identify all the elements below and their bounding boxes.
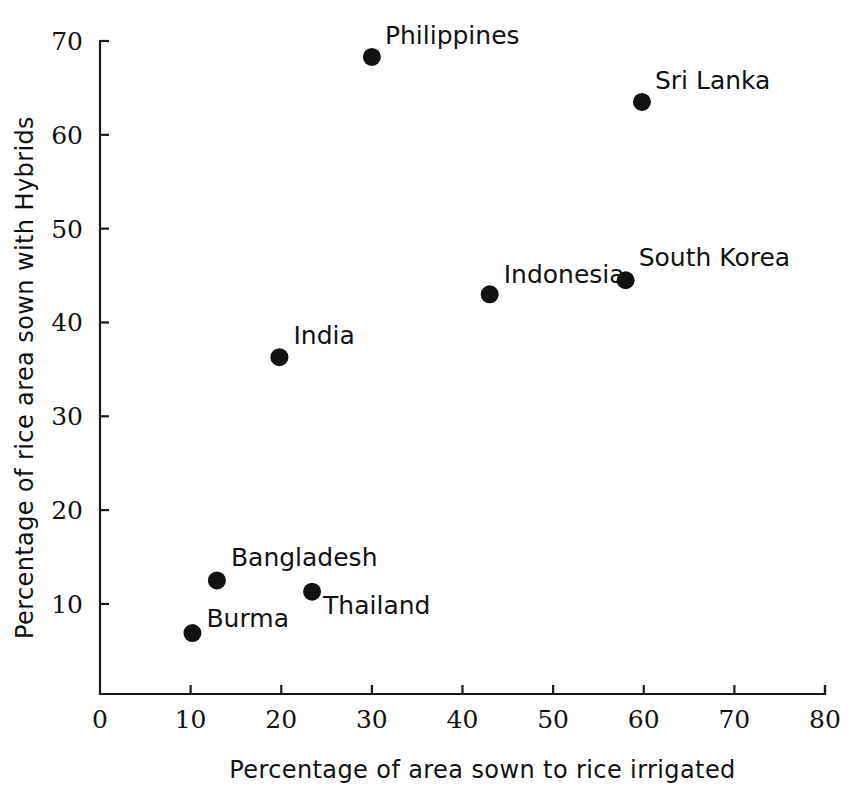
axis-titles: Percentage of area sown to rice irrigate… [11,116,736,784]
point-marker-bangladesh [208,571,226,589]
y-tick-label-10: 10 [51,590,83,619]
y-tick-label-70: 70 [51,27,83,56]
point-label-indonesia: Indonesia [504,260,625,289]
axis-ticks [100,41,825,694]
point-label-india: India [293,321,354,350]
point-label-thailand: Thailand [322,591,430,620]
x-tick-label-40: 40 [447,705,479,734]
x-tick-label-0: 0 [92,705,108,734]
point-label-philippines: Philippines [385,21,520,50]
axis-tick-labels: 0102030405060708010203040506070 [51,27,841,734]
x-tick-label-10: 10 [175,705,207,734]
y-tick-label-40: 40 [51,308,83,337]
axis-lines [100,41,825,694]
x-tick-label-30: 30 [356,705,388,734]
x-tick-label-80: 80 [809,705,841,734]
x-axis-title: Percentage of area sown to rice irrigate… [229,756,735,784]
point-marker-indonesia [481,285,499,303]
data-point-thailand: Thailand [303,583,430,620]
x-tick-label-50: 50 [537,705,569,734]
point-marker-philippines [363,48,381,66]
y-tick-label-20: 20 [51,496,83,525]
point-label-sri-lanka: Sri Lanka [655,66,771,95]
x-tick-label-60: 60 [628,705,660,734]
point-label-south-korea: South Korea [639,243,790,272]
data-point-indonesia: Indonesia [481,260,625,303]
data-point-philippines: Philippines [363,21,520,66]
point-label-burma: Burma [206,604,289,633]
data-points: BurmaBangladeshIndiaThailandPhilippinesI… [183,21,790,642]
y-axis-title: Percentage of rice area sown with Hybrid… [11,116,39,639]
plot-area: 0102030405060708010203040506070 BurmaBan… [0,0,857,799]
data-point-bangladesh: Bangladesh [208,543,378,589]
data-point-india: India [270,321,354,366]
scatter-chart: 0102030405060708010203040506070 BurmaBan… [0,0,857,799]
y-tick-label-30: 30 [51,402,83,431]
data-point-south-korea: South Korea [617,243,790,289]
axes [100,41,825,694]
data-point-burma: Burma [183,604,289,642]
point-marker-sri-lanka [633,93,651,111]
point-marker-thailand [303,583,321,601]
x-tick-label-70: 70 [718,705,750,734]
point-marker-burma [183,624,201,642]
point-marker-india [270,348,288,366]
y-tick-label-60: 60 [51,121,83,150]
x-tick-label-20: 20 [265,705,297,734]
point-label-bangladesh: Bangladesh [231,543,378,572]
y-tick-label-50: 50 [51,215,83,244]
point-marker-south-korea [617,271,635,289]
data-point-sri-lanka: Sri Lanka [633,66,771,111]
